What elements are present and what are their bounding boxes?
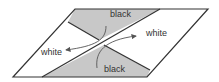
label-right-white: white xyxy=(145,28,167,38)
surface-diagram: black white white black xyxy=(0,0,219,82)
label-bottom-black: black xyxy=(104,64,126,74)
label-top-black: black xyxy=(110,9,132,19)
label-left-white: white xyxy=(40,47,62,57)
